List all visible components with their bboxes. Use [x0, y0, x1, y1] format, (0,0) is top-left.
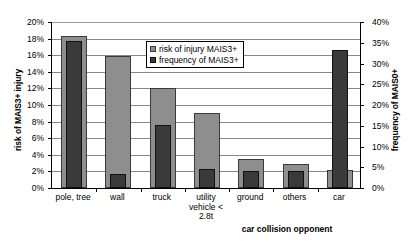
y-axis-left-tick-label: 10%: [27, 101, 44, 110]
y-axis-right-tick-label: 35%: [372, 39, 389, 48]
x-axis-category-label: car: [317, 193, 361, 203]
legend-item-risk: risk of injury MAIS3+: [150, 44, 239, 54]
legend-label-risk: risk of injury MAIS3+: [159, 45, 237, 54]
x-axis-label-line: pole, tree: [51, 193, 95, 203]
bar-group: [318, 22, 362, 188]
bar-frequency: [155, 125, 171, 188]
y-axis-right-tickmark: [360, 188, 364, 189]
x-axis-category-label: truck: [140, 193, 184, 203]
x-axis-label-line: wall: [95, 193, 139, 203]
x-axis-label-line: 2.8t: [184, 212, 228, 222]
chart-legend: risk of injury MAIS3+ frequency of MAIS3…: [146, 41, 244, 68]
y-axis-right-tick-label: 0%: [372, 184, 384, 193]
legend-item-frequency: frequency of MAIS3+: [150, 55, 239, 65]
x-axis-tickmark: [185, 188, 186, 192]
x-axis-category-label: ground: [228, 193, 272, 203]
legend-swatch-risk-icon: [150, 46, 156, 52]
legend-swatch-frequency-icon: [150, 57, 156, 63]
x-axis-label-line: truck: [140, 193, 184, 203]
chart-container: risk of MAIS3+ injury frequency of MAIS0…: [0, 0, 409, 248]
x-axis-tickmark: [96, 188, 97, 192]
bar-group: [52, 22, 96, 188]
y-axis-right-title: frequency of MAIS0+: [390, 45, 400, 175]
y-axis-right-tick-label: 5%: [372, 163, 384, 172]
x-axis-title: car collision opponent: [212, 224, 362, 234]
y-axis-right-tick-label: 10%: [372, 143, 389, 152]
y-axis-left-tick-label: 18%: [27, 35, 44, 44]
y-axis-left-tickmark: [48, 188, 52, 189]
y-axis-left-tick-label: 14%: [27, 68, 44, 77]
x-axis-tickmark: [229, 188, 230, 192]
x-axis-tickmark: [273, 188, 274, 192]
y-axis-left-ticks: 20%18%16%14%12%10%8%6%4%2%0%: [20, 0, 46, 248]
y-axis-left-tick-label: 6%: [32, 134, 44, 143]
y-axis-right-tick-label: 30%: [372, 60, 389, 69]
legend-label-frequency: frequency of MAIS3+: [159, 56, 239, 65]
x-axis-category-label: others: [272, 193, 316, 203]
y-axis-right-tick-label: 15%: [372, 122, 389, 131]
bar-frequency: [288, 171, 304, 188]
x-axis-category-label: wall: [95, 193, 139, 203]
y-axis-left-tick-label: 2%: [32, 167, 44, 176]
y-axis-right-tick-label: 20%: [372, 101, 389, 110]
y-axis-left-tick-label: 12%: [27, 84, 44, 93]
x-axis-label-line: car: [317, 193, 361, 203]
x-axis-tickmark: [318, 188, 319, 192]
bar-frequency: [243, 171, 259, 188]
bar-risk-of-injury: [105, 56, 131, 188]
y-axis-right-tick-label: 40%: [372, 18, 389, 27]
bar-frequency: [199, 169, 215, 189]
y-axis-left-tick-label: 16%: [27, 51, 44, 60]
bar-group: [96, 22, 140, 188]
bar-frequency: [332, 50, 348, 188]
bar-frequency: [110, 174, 126, 188]
x-axis-label-line: ground: [228, 193, 272, 203]
y-axis-right-ticks: 40%35%30%25%20%15%10%5%0%: [364, 0, 390, 248]
y-axis-left-tick-label: 0%: [32, 184, 44, 193]
bar-frequency: [66, 41, 82, 188]
bar-group: [273, 22, 317, 188]
y-axis-left-tick-label: 8%: [32, 118, 44, 127]
y-axis-right-tick-label: 25%: [372, 80, 389, 89]
y-axis-left-tick-label: 20%: [27, 18, 44, 27]
x-axis-label-line: others: [272, 193, 316, 203]
x-axis-category-label: utilityvehicle <2.8t: [184, 193, 228, 222]
x-axis-category-label: pole, tree: [51, 193, 95, 203]
x-axis-tickmark: [141, 188, 142, 192]
y-axis-left-tick-label: 4%: [32, 151, 44, 160]
